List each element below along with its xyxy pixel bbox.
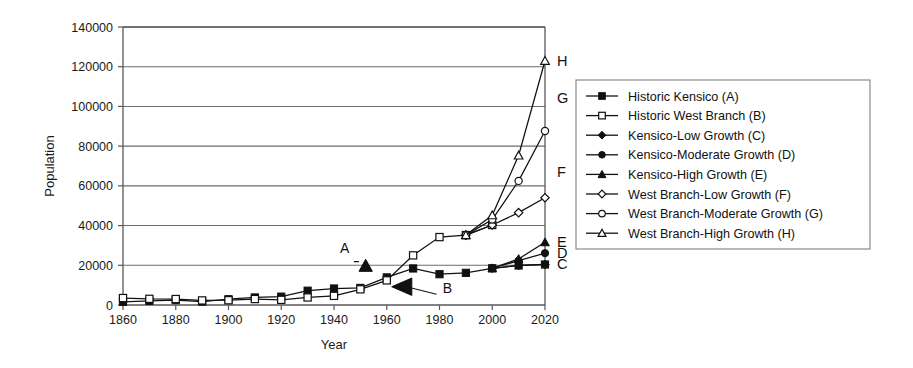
- legend-item-7[interactable]: West Branch-Moderate Growth (G): [579, 205, 867, 223]
- x-tick-label-1960: 1960: [373, 313, 401, 327]
- open-square-marker: [119, 294, 126, 301]
- open-square-marker: [357, 286, 364, 293]
- legend-item-8[interactable]: West Branch-High Growth (H): [579, 224, 867, 242]
- open-square-marker: [251, 295, 258, 302]
- open-circle-marker: [599, 210, 606, 217]
- legend-label: West Branch-High Growth (H): [628, 227, 795, 241]
- legend[interactable]: Historic Kensico (A)Historic West Branch…: [576, 80, 870, 249]
- chart-figure: 0200004000060000800001000001200001400001…: [0, 0, 913, 368]
- legend-label: Historic Kensico (A): [628, 90, 739, 104]
- open-square-marker: [410, 252, 417, 259]
- y-tick-label-100000: 100000: [71, 100, 113, 114]
- y-tick-label-20000: 20000: [78, 259, 113, 273]
- population-projection-line-chart: 0200004000060000800001000001200001400001…: [0, 0, 913, 368]
- y-tick-label-60000: 60000: [78, 179, 113, 193]
- filled-square-marker: [304, 287, 311, 294]
- open-square-marker: [599, 112, 606, 119]
- open-square-marker: [330, 292, 337, 299]
- filled-square-marker: [410, 265, 417, 272]
- legend-label: Historic West Branch (B): [628, 109, 766, 123]
- filled-circle-marker: [541, 250, 548, 257]
- x-tick-label-1920: 1920: [267, 313, 295, 327]
- legend-item-3[interactable]: Kensico-Low Growth (C): [579, 126, 867, 144]
- legend-box: [576, 80, 870, 249]
- filled-square-marker: [330, 285, 337, 292]
- open-square-marker: [199, 297, 206, 304]
- legend-item-2[interactable]: Historic West Branch (B): [579, 107, 867, 125]
- annotation-label-B: B: [443, 280, 452, 296]
- annotation-label-A: A: [340, 240, 350, 256]
- filled-square-marker: [436, 271, 443, 278]
- open-square-marker: [146, 295, 153, 302]
- open-square-marker: [436, 233, 443, 240]
- x-axis-title: Year: [321, 337, 348, 352]
- end-label-G: G: [557, 90, 568, 106]
- open-square-marker: [304, 294, 311, 301]
- open-square-marker: [383, 277, 390, 284]
- legend-label: Kensico-High Growth (E): [628, 168, 767, 182]
- x-tick-label-1980: 1980: [426, 313, 454, 327]
- y-tick-label-140000: 140000: [71, 21, 113, 35]
- filled-circle-marker: [599, 151, 606, 158]
- legend-label: West Branch-Moderate Growth (G): [628, 207, 823, 221]
- legend-item-6[interactable]: West Branch-Low Growth (F): [579, 185, 867, 203]
- y-tick-label-80000: 80000: [78, 140, 113, 154]
- open-circle-marker: [515, 177, 522, 184]
- y-tick-label-40000: 40000: [78, 219, 113, 233]
- end-label-F: F: [557, 164, 566, 180]
- legend-item-4[interactable]: Kensico-Moderate Growth (D): [579, 146, 867, 164]
- legend-label: Kensico-Low Growth (C): [628, 129, 765, 143]
- legend-item-1[interactable]: Historic Kensico (A): [579, 87, 867, 105]
- x-tick-label-2000: 2000: [478, 313, 506, 327]
- open-square-marker: [225, 297, 232, 304]
- open-square-marker: [278, 296, 285, 303]
- end-label-E: E: [557, 234, 567, 250]
- end-label-H: H: [557, 53, 567, 69]
- y-axis-title: Population: [42, 135, 57, 196]
- open-circle-marker: [541, 127, 548, 134]
- x-tick-label-1880: 1880: [162, 313, 190, 327]
- legend-label: West Branch-Low Growth (F): [628, 188, 791, 202]
- filled-square-marker: [462, 269, 469, 276]
- x-tick-label-1860: 1860: [109, 313, 137, 327]
- filled-square-marker: [599, 93, 606, 100]
- legend-label: Kensico-Moderate Growth (D): [628, 148, 795, 162]
- legend-item-5[interactable]: Kensico-High Growth (E): [579, 165, 867, 183]
- open-square-marker: [172, 295, 179, 302]
- y-tick-label-0: 0: [106, 299, 113, 313]
- y-tick-label-120000: 120000: [71, 60, 113, 74]
- x-tick-label-1940: 1940: [320, 313, 348, 327]
- x-tick-label-1900: 1900: [215, 313, 243, 327]
- x-tick-label-2020: 2020: [531, 313, 559, 327]
